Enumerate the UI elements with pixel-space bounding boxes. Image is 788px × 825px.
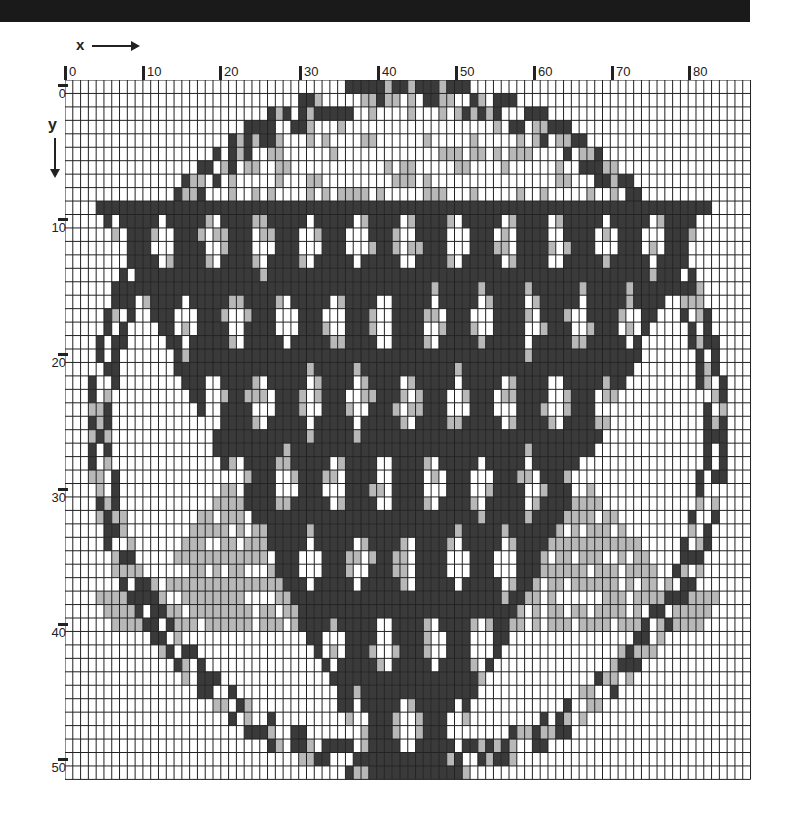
pattern-grid bbox=[65, 80, 752, 781]
y-axis-label: y bbox=[48, 116, 57, 134]
x-arrow-icon bbox=[92, 45, 132, 47]
y-arrow-icon bbox=[54, 138, 56, 170]
header-bar bbox=[0, 0, 750, 22]
x-axis-label: x bbox=[76, 36, 84, 53]
